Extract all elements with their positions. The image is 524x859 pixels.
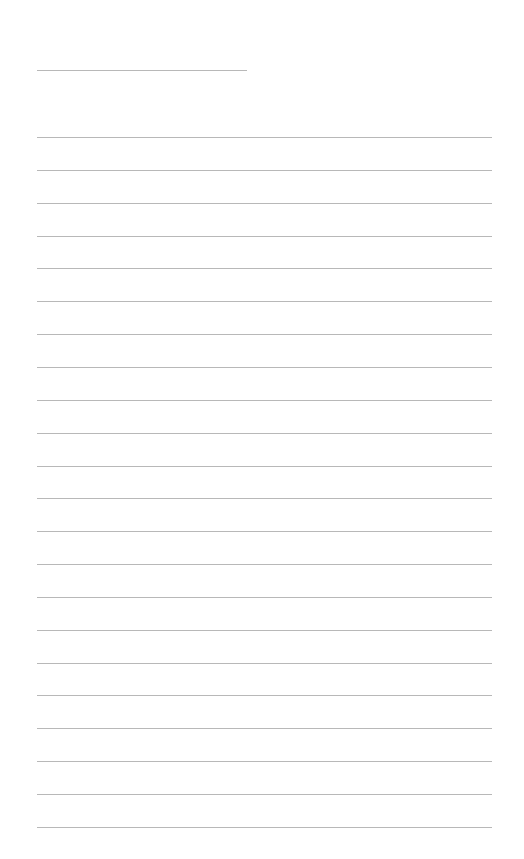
ruled-line xyxy=(37,137,492,138)
ruled-line xyxy=(37,695,492,696)
ruled-line xyxy=(37,564,492,565)
ruled-line xyxy=(37,597,492,598)
header-bleed-through-text xyxy=(20,0,504,14)
ruled-line xyxy=(37,827,492,828)
ruled-line xyxy=(37,334,492,335)
ruled-line xyxy=(37,663,492,664)
ruled-line xyxy=(37,170,492,171)
ruled-line xyxy=(37,761,492,762)
lined-page xyxy=(0,0,524,859)
ruled-line xyxy=(37,630,492,631)
ruled-line xyxy=(37,728,492,729)
ruled-line xyxy=(37,268,492,269)
ruled-line xyxy=(37,367,492,368)
title-rule-line xyxy=(37,70,247,71)
ruled-line xyxy=(37,498,492,499)
ruled-line xyxy=(37,236,492,237)
ruled-line xyxy=(37,301,492,302)
ruled-line xyxy=(37,794,492,795)
ruled-line xyxy=(37,400,492,401)
ruled-line xyxy=(37,203,492,204)
ruled-line xyxy=(37,466,492,467)
ruled-line xyxy=(37,531,492,532)
ruled-line xyxy=(37,433,492,434)
